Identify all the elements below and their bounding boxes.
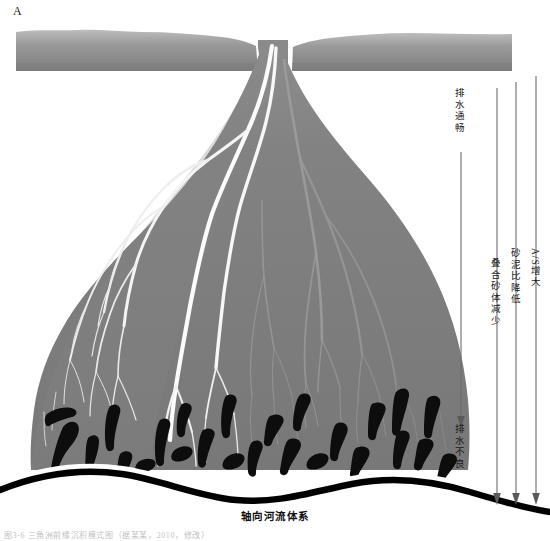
label-as-ratio: A/S增大: [529, 248, 539, 288]
label-sand-mud-ratio: 砂泥比降低: [509, 248, 519, 306]
delta-fan-diagram: [0, 0, 550, 541]
caption-axial-river-system: 轴向河流体系: [0, 508, 550, 523]
label-drainage-bottom: 排水不良: [453, 424, 463, 470]
axial-river-belt: [0, 472, 550, 512]
trend-arrow-as-ratio: [532, 76, 540, 505]
figure-panel-a: A 排水通畅 排水不良 叠合砂体减少 砂泥比降低 A/S增大 轴向河流体系 图3…: [0, 0, 550, 541]
label-amalgamated-sandbodies: 叠合砂体减少: [489, 258, 499, 327]
panel-letter: A: [13, 4, 22, 19]
label-drainage-top: 排水通畅: [453, 88, 463, 134]
caption-figure-footer: 图3-6 三角洲前缘沉积模式图（据某某，2010，修改）: [4, 529, 209, 540]
